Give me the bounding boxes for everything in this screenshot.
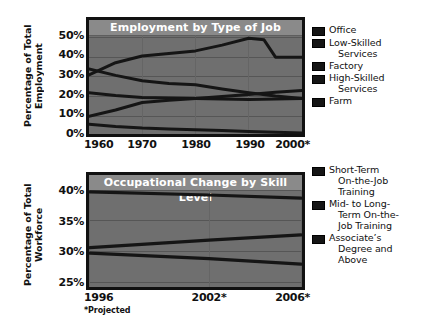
legend-label: Mid- to Long-Term On-the-Job Training: [329, 198, 399, 231]
y-tick: 30%: [59, 67, 84, 80]
y-tick: 0%: [66, 127, 84, 140]
y-tick: 10%: [59, 107, 84, 120]
series-line-associates-degree-and-above: [90, 253, 301, 264]
bottom-chart-plot-area: Occupational Change by Skill Level: [86, 172, 305, 290]
legend-swatch-low-skilled-services: [312, 39, 325, 48]
legend-label-cont: Services: [329, 83, 384, 94]
bottom-chart-y-axis-label-line1: Percentage of Total: [22, 184, 33, 286]
legend-swatch-office: [312, 27, 325, 36]
legend-label-cont: Training: [329, 186, 388, 197]
legend-label: High-SkilledServices: [329, 72, 384, 94]
top-chart-plot-area: Employment by Type of Job: [86, 17, 305, 137]
legend-item[interactable]: Farm: [312, 95, 426, 107]
y-tick: 40%: [59, 184, 84, 197]
legend-label: Associate’sDegree andAbove: [329, 232, 392, 265]
legend-item[interactable]: Associate’sDegree andAbove: [312, 232, 426, 265]
x-tick: 1970: [127, 138, 156, 151]
legend-label-cont: Job Training: [329, 220, 399, 231]
legend-label-cont: Services: [329, 48, 381, 59]
legend-label: Farm: [329, 95, 352, 106]
x-tick: 1990: [235, 138, 264, 151]
x-tick: 1980: [181, 138, 210, 151]
top-chart-legend: Office Low-SkilledServices Factory High-…: [312, 24, 426, 108]
legend-item[interactable]: Mid- to Long-Term On-the-Job Training: [312, 198, 426, 231]
x-tick: 2000*: [275, 138, 310, 151]
top-chart-y-ticks: 50% 40% 30% 20% 10% 0%: [44, 0, 84, 152]
y-tick: 50%: [59, 28, 84, 41]
top-chart-y-axis-label: Percentage of Total Employment: [22, 24, 46, 128]
projected-footnote: *Projected: [84, 306, 130, 315]
top-chart-y-axis-label-line1: Percentage of Total: [22, 25, 33, 127]
legend-item[interactable]: Low-SkilledServices: [312, 37, 426, 59]
x-tick: 1960: [84, 138, 113, 151]
legend-label: Short-TermOn-the-JobTraining: [329, 164, 388, 197]
legend-label: Office: [329, 24, 356, 35]
series-line-short-term-ojt: [90, 192, 301, 198]
y-tick: 30%: [59, 245, 84, 258]
top-chart-x-ticks: 1960 1970 1980 1990 2000*: [86, 138, 305, 152]
legend-label-cont: Term On-the-: [329, 209, 399, 220]
bottom-chart-y-ticks: 40% 35% 30% 25%: [44, 160, 84, 324]
x-tick: 2006*: [275, 291, 310, 304]
legend-label-cont: Degree and: [329, 243, 392, 254]
y-tick: 25%: [59, 276, 84, 289]
y-tick: 35%: [59, 214, 84, 227]
legend-item[interactable]: Short-TermOn-the-JobTraining: [312, 164, 426, 197]
bottom-chart-x-ticks: 1996 2002* 2006*: [86, 291, 305, 305]
legend-item[interactable]: Office: [312, 24, 426, 36]
legend-swatch-associates-degree-and-above: [312, 235, 325, 244]
legend-item[interactable]: High-SkilledServices: [312, 72, 426, 94]
employment-by-type-of-job-chart: Percentage of Total Employment 50% 40% 3…: [0, 0, 426, 152]
legend-label: Low-SkilledServices: [329, 37, 381, 59]
top-chart-y-axis-label-line2: Employment: [33, 43, 44, 109]
x-tick: 2002*: [192, 291, 227, 304]
two-chart-figure: Percentage of Total Employment 50% 40% 3…: [0, 0, 426, 324]
series-line-mid-to-long-term-ojt: [90, 235, 301, 248]
x-tick: 1996: [84, 291, 113, 304]
legend-item[interactable]: Factory: [312, 60, 426, 72]
bottom-chart-legend: Short-TermOn-the-JobTraining Mid- to Lon…: [312, 164, 426, 266]
occupational-change-by-skill-level-chart: Percentage of Total Workforce 40% 35% 30…: [0, 160, 426, 324]
legend-swatch-high-skilled-services: [312, 75, 325, 84]
top-chart-lines: [89, 20, 302, 134]
y-tick: 40%: [59, 48, 84, 61]
bottom-chart-lines: [89, 175, 302, 287]
legend-swatch-mid-to-long-term-ojt: [312, 201, 325, 210]
bottom-chart-y-axis-label-line2: Workforce: [33, 208, 44, 262]
legend-swatch-short-term-ojt: [312, 167, 325, 176]
bottom-chart-y-axis-label: Percentage of Total Workforce: [22, 182, 46, 288]
legend-label: Factory: [329, 60, 363, 71]
legend-swatch-farm: [312, 98, 325, 107]
bottom-chart-vertical-gridlines: [90, 190, 301, 287]
legend-label-cont: On-the-Job: [329, 175, 388, 186]
legend-swatch-factory: [312, 62, 325, 71]
legend-label-cont: Above: [329, 254, 392, 265]
y-tick: 20%: [59, 87, 84, 100]
